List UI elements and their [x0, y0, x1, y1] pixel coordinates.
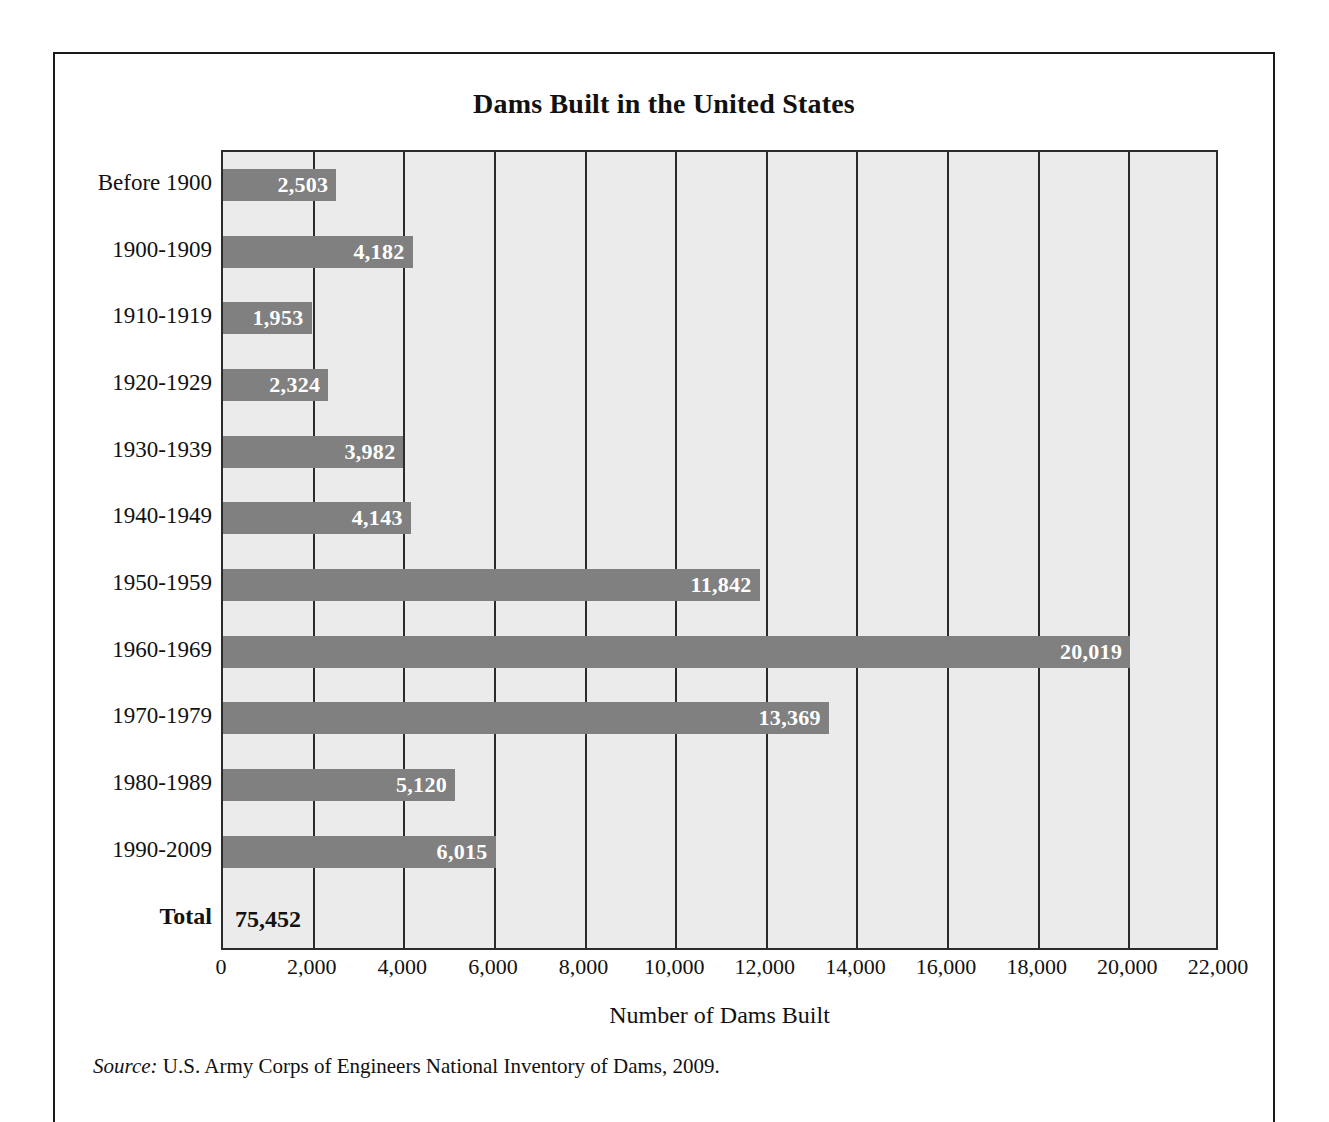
bar[interactable]: 2,324	[223, 369, 328, 401]
bar-value-label: 5,120	[396, 772, 447, 798]
x-tick-label: 6,000	[468, 954, 518, 980]
bar-value-label: 6,015	[437, 839, 488, 865]
x-axis-tick-labels: 02,0004,0006,0008,00010,00012,00014,0001…	[221, 954, 1218, 990]
bar[interactable]: 4,143	[223, 502, 411, 534]
bar-row[interactable]: 20,019	[223, 619, 1216, 686]
category-label: 1950-1959	[112, 550, 212, 617]
bar-row[interactable]: 1,953	[223, 285, 1216, 352]
category-label: 1910-1919	[112, 283, 212, 350]
x-tick-label: 10,000	[644, 954, 705, 980]
y-axis-category-labels: Before 19001900-19091910-19191920-192919…	[55, 150, 212, 950]
x-tick-label: 2,000	[287, 954, 337, 980]
x-axis-title: Number of Dams Built	[221, 1002, 1218, 1029]
bar[interactable]: 13,369	[223, 702, 829, 734]
bar-row[interactable]: 75,452	[223, 885, 1216, 952]
x-tick-label: 12,000	[735, 954, 796, 980]
bar-value-label: 4,182	[354, 239, 405, 265]
bar-value-label: 1,953	[253, 305, 304, 331]
bar-row[interactable]: 6,015	[223, 819, 1216, 886]
page-title: Dams Built in the United States	[55, 88, 1273, 120]
bar-value-label: 3,982	[344, 439, 395, 465]
bar[interactable]: 11,842	[223, 569, 760, 601]
x-tick-label: 22,000	[1188, 954, 1249, 980]
bar[interactable]: 6,015	[223, 836, 496, 868]
bar-value-label: 2,324	[269, 372, 320, 398]
bar[interactable]: 3,982	[223, 436, 403, 468]
bar-value-label: 4,143	[352, 505, 403, 531]
x-tick-label: 14,000	[825, 954, 886, 980]
category-label: Before 1900	[98, 150, 212, 217]
bar[interactable]: 2,503	[223, 169, 336, 201]
bar-series: 2,5034,1821,9532,3243,9824,14311,84220,0…	[223, 152, 1216, 948]
category-label: 1940-1949	[112, 483, 212, 550]
category-label: Total	[160, 883, 212, 950]
category-label: 1920-1929	[112, 350, 212, 417]
category-label: 1980-1989	[112, 750, 212, 817]
source-text: U.S. Army Corps of Engineers National In…	[158, 1054, 720, 1078]
total-value-label: 75,452	[235, 905, 301, 932]
plot-area: 2,5034,1821,9532,3243,9824,14311,84220,0…	[221, 150, 1218, 950]
x-tick-label: 16,000	[916, 954, 977, 980]
bar-value-label: 11,842	[691, 572, 752, 598]
bar[interactable]: 4,182	[223, 236, 413, 268]
bar-row[interactable]: 5,120	[223, 752, 1216, 819]
x-tick-label: 0	[216, 954, 227, 980]
bar[interactable]: 5,120	[223, 769, 455, 801]
category-label: 1930-1939	[112, 417, 212, 484]
category-label: 1960-1969	[112, 617, 212, 684]
x-tick-label: 8,000	[559, 954, 609, 980]
figure-frame: Dams Built in the United States Before 1…	[53, 52, 1275, 1122]
source-note: Source: U.S. Army Corps of Engineers Nat…	[93, 1054, 720, 1079]
bar-row[interactable]: 2,324	[223, 352, 1216, 419]
bar-value-label: 2,503	[277, 172, 328, 198]
bar-value-label: 13,369	[759, 705, 821, 731]
source-label: Source:	[93, 1054, 158, 1078]
bar[interactable]: 20,019	[223, 636, 1130, 668]
x-tick-label: 20,000	[1097, 954, 1158, 980]
bar-row[interactable]: 4,182	[223, 219, 1216, 286]
bar[interactable]: 1,953	[223, 302, 312, 334]
bar-row[interactable]: 11,842	[223, 552, 1216, 619]
x-tick-label: 18,000	[1006, 954, 1067, 980]
bar-row[interactable]: 3,982	[223, 419, 1216, 486]
x-tick-label: 4,000	[378, 954, 428, 980]
category-label: 1900-1909	[112, 217, 212, 284]
category-label: 1970-1979	[112, 683, 212, 750]
category-label: 1990-2009	[112, 817, 212, 884]
bar-value-label: 20,019	[1060, 639, 1122, 665]
bar-row[interactable]: 13,369	[223, 685, 1216, 752]
bar-row[interactable]: 4,143	[223, 485, 1216, 552]
bar-row[interactable]: 2,503	[223, 152, 1216, 219]
